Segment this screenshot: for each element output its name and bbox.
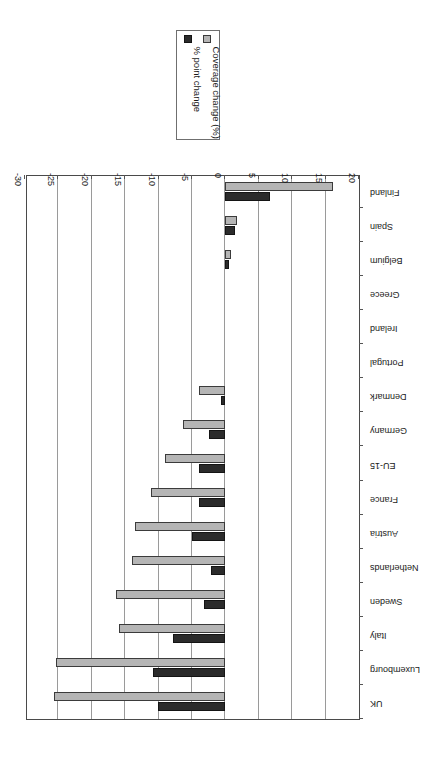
chart-legend: Coverage change (%)% point change [176, 30, 220, 140]
bar-belgium-s2 [225, 260, 229, 269]
chart-figure: 20151050-5-10-15-20-25-30 FinlandSpainBe… [0, 0, 442, 773]
axis-tick [57, 175, 58, 179]
legend-swatch-dark [184, 35, 192, 43]
axis-tick [124, 175, 125, 179]
axis-tick-label: 0 [213, 173, 222, 178]
category-tick [359, 411, 363, 412]
category-tick [359, 377, 363, 378]
axis-tick-label: -20 [80, 173, 89, 186]
bar-germany-s1 [183, 420, 226, 429]
legend-label: % point change [192, 47, 202, 113]
category-tick [359, 582, 363, 583]
axis-tick-label: -15 [113, 173, 122, 186]
category-label: Luxembourg [370, 665, 420, 674]
gridline [57, 176, 58, 719]
category-label: Sweden [370, 597, 403, 606]
axis-tick [224, 175, 225, 179]
plot-area [26, 175, 360, 720]
category-label: France [370, 495, 398, 504]
category-tick [359, 514, 363, 515]
axis-tick-label: 20 [347, 173, 356, 183]
bar-eu-15-s2 [199, 464, 226, 473]
axis-tick [291, 175, 292, 179]
category-label: Greece [370, 290, 400, 299]
bar-italy-s2 [173, 634, 226, 643]
axis-tick [258, 175, 259, 179]
axis-tick [325, 175, 326, 179]
axis-tick [24, 175, 25, 179]
bar-sweden-s2 [204, 600, 225, 609]
bar-denmark-s1 [199, 386, 226, 395]
category-label: Denmark [370, 392, 407, 401]
category-label: Netherlands [370, 563, 419, 572]
category-label: Finland [370, 188, 400, 197]
bar-austria-s2 [192, 532, 225, 541]
gridline [291, 176, 292, 719]
category-label: EU-15 [370, 461, 396, 470]
bar-belgium-s1 [225, 250, 230, 259]
bar-spain-s1 [225, 216, 237, 225]
bar-netherlands-s1 [132, 556, 226, 565]
axis-tick [91, 175, 92, 179]
category-tick [359, 207, 363, 208]
category-label: UK [370, 699, 383, 708]
axis-tick [191, 175, 192, 179]
category-label: Italy [370, 631, 387, 640]
axis-tick-label: -10 [147, 173, 156, 186]
category-label: Portugal [370, 358, 404, 367]
gridline [124, 176, 125, 719]
bar-spain-s2 [225, 226, 234, 235]
bar-denmark-s2 [221, 396, 226, 405]
category-label: Austria [370, 529, 398, 538]
axis-tick-label: -5 [180, 173, 189, 181]
y-axis-category-labels: FinlandSpainBelgiumGreeceIrelandPortugal… [364, 175, 442, 720]
gridline [258, 176, 259, 719]
bar-france-s1 [151, 488, 225, 497]
category-label: Ireland [370, 324, 398, 333]
bar-luxembourg-s1 [56, 658, 225, 667]
category-tick [359, 616, 363, 617]
axis-tick [158, 175, 159, 179]
category-tick [359, 718, 363, 719]
bar-eu-15-s1 [165, 454, 225, 463]
bar-france-s2 [199, 498, 226, 507]
bar-finland-s2 [225, 192, 270, 201]
axis-tick [358, 175, 359, 179]
bar-netherlands-s2 [211, 566, 226, 575]
axis-tick-label: -30 [13, 173, 22, 186]
gridline [91, 176, 92, 719]
bar-uk-s1 [54, 692, 226, 701]
gridline [325, 176, 326, 719]
category-tick [359, 684, 363, 685]
axis-tick-label: 15 [314, 173, 323, 183]
category-tick [359, 650, 363, 651]
bar-italy-s1 [119, 624, 226, 633]
gridline [158, 176, 159, 719]
bar-uk-s2 [158, 702, 225, 711]
axis-tick-label: -25 [46, 173, 55, 186]
bar-austria-s1 [135, 522, 226, 531]
category-tick [359, 548, 363, 549]
bar-luxembourg-s2 [153, 668, 226, 677]
bar-germany-s2 [209, 430, 226, 439]
category-tick [359, 343, 363, 344]
legend-label: Coverage change (%) [211, 47, 221, 139]
category-tick [359, 241, 363, 242]
axis-tick-label: 5 [247, 173, 256, 178]
category-label: Belgium [370, 256, 403, 265]
legend-swatch-light [203, 35, 211, 43]
category-tick [359, 480, 363, 481]
category-label: Spain [370, 222, 393, 231]
category-tick [359, 445, 363, 446]
axis-tick-label: 10 [280, 173, 289, 183]
category-label: Germany [370, 426, 407, 435]
category-tick [359, 309, 363, 310]
category-tick [359, 275, 363, 276]
bar-sweden-s1 [116, 590, 226, 599]
